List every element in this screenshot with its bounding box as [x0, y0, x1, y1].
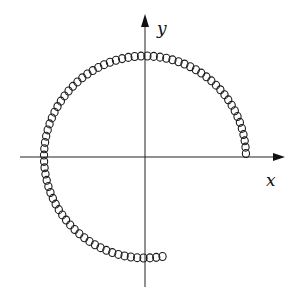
coil-loop — [74, 78, 81, 86]
coil-loop — [59, 211, 66, 219]
x-axis-arrow-icon — [273, 153, 285, 161]
coil-loop — [198, 69, 205, 77]
coil-loop — [79, 74, 86, 82]
coil-loop — [212, 81, 219, 89]
coil-loop — [208, 77, 215, 85]
diagram-canvas: x y — [0, 0, 295, 302]
coil-loop — [81, 234, 88, 242]
coil-loop — [61, 92, 68, 100]
y-axis-label: y — [156, 18, 167, 38]
coil-loop — [217, 86, 224, 94]
coil-loop — [86, 237, 93, 245]
coil-loop — [84, 70, 91, 78]
coil-loop — [62, 216, 69, 224]
x-axis-label: x — [266, 170, 276, 190]
coil-loop — [225, 96, 232, 104]
y-axis-arrow-icon — [141, 14, 149, 27]
coil-loop — [69, 82, 76, 90]
coil-loop — [71, 226, 78, 234]
coil-loop — [203, 73, 210, 81]
coil-loop — [221, 91, 228, 99]
coil-loop — [65, 87, 72, 95]
coil-loop — [67, 221, 74, 229]
coil-loop — [76, 230, 83, 238]
coil-loop — [89, 67, 96, 75]
